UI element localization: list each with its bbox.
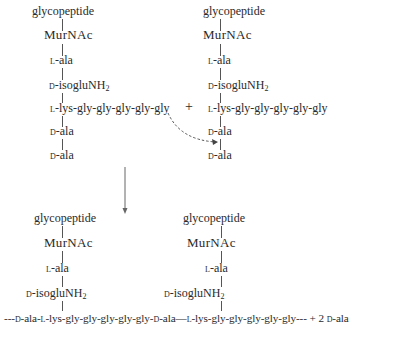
dashed-curved-arrow-icon — [168, 113, 216, 142]
d-isoglu-label: d-isogluNH2 — [164, 286, 224, 300]
cross-linked-chain: ---d-ala-l-lys-gly-gly-gly-gly-gly-d-ala… — [4, 311, 349, 325]
murnac-label: MurNAc — [44, 236, 93, 250]
l-ala-label: l-ala — [46, 261, 69, 275]
glycopeptide-label: glycopeptide — [183, 211, 245, 225]
l-ala-label: l-ala — [205, 261, 228, 275]
murnac-label: MurNAc — [187, 236, 236, 250]
reaction-arrowhead-icon — [123, 208, 128, 214]
glycopeptide-label: glycopeptide — [34, 211, 96, 225]
dashed-arrowhead-icon — [212, 139, 218, 145]
bond-line — [62, 301, 63, 311]
bond-line — [221, 301, 222, 311]
byproduct: + 2 d-ala — [310, 312, 349, 324]
d-isoglu-label: d-isogluNH2 — [26, 286, 86, 300]
